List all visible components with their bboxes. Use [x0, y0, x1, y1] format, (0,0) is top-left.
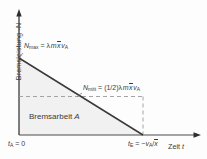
- nmax-annotation: Nmax = λ m x vA: [24, 42, 68, 50]
- x-tick-start-label: tA = 0: [8, 140, 25, 148]
- brake-power-diagram: Bremsleistung -N Zeit t Nmax = λ m x vA …: [0, 0, 207, 159]
- nmitt-annotation: Nmitt = (1/2)λ m x vA: [83, 84, 140, 92]
- diagram-canvas: [0, 0, 207, 159]
- y-axis-label: Bremsleistung -N: [14, 12, 23, 92]
- x-tick-end-label: tE = −vA/x: [128, 140, 158, 148]
- braking-work-label: Bremsarbeit A: [29, 112, 80, 121]
- x-axis-label: Zeit t: [168, 142, 184, 151]
- x-axis-arrow-icon: [194, 132, 202, 137]
